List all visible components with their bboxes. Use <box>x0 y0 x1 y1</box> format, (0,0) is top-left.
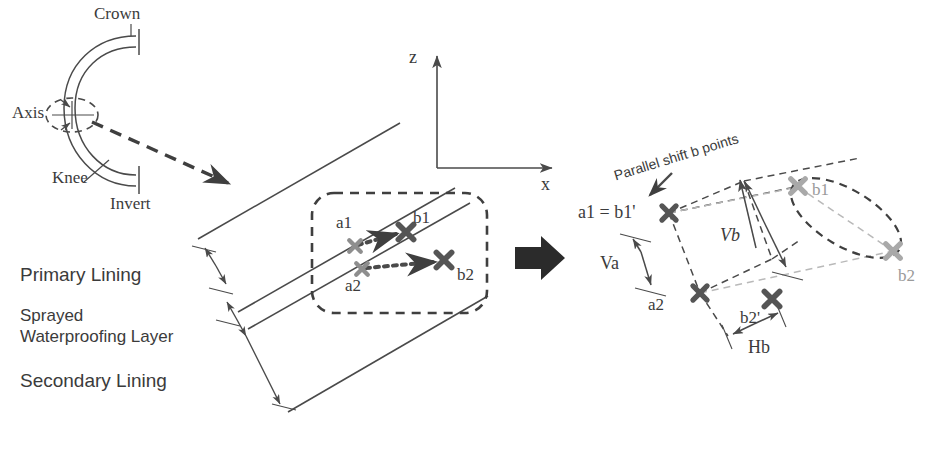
shift-target-leader <box>740 180 756 248</box>
label-invert: Invert <box>110 194 151 214</box>
lining-thickness-dimension <box>192 246 296 410</box>
label-axis: Axis <box>12 103 44 123</box>
label-point-b2: b2 <box>457 265 474 285</box>
label-secondary-lining: Secondary Lining <box>20 370 167 392</box>
coordinate-axes <box>437 56 552 168</box>
marker-a2-right <box>693 286 707 300</box>
original-b-ellipse <box>778 162 913 274</box>
label-b2-original: b2 <box>898 266 915 286</box>
axis-label-x: x <box>541 174 550 195</box>
label-sprayed-line2: Waterproofing Layer <box>20 327 173 347</box>
label-a2-right: a2 <box>648 295 664 315</box>
axis-pointer-arrow <box>92 122 228 183</box>
dimension-Va <box>620 234 666 296</box>
label-b1-original: b1 <box>812 180 829 200</box>
marker-a1-equals-b1p <box>662 206 676 220</box>
label-primary-lining: Primary Lining <box>20 264 141 286</box>
axis-label-z: z <box>409 47 417 68</box>
lining-lines <box>198 123 488 412</box>
label-b2p: b2' <box>740 308 760 328</box>
label-crown: Crown <box>94 4 140 24</box>
marker-b2 <box>436 252 451 267</box>
label-point-a2: a2 <box>345 276 361 296</box>
marker-b2p <box>764 291 779 306</box>
label-knee: Knee <box>52 168 88 188</box>
label-point-b1: b1 <box>413 208 430 228</box>
figure-canvas: Crown Axis Knee Invert z x Primary Linin… <box>0 0 938 461</box>
parallel-shift-leader-arrow <box>650 173 672 195</box>
label-sprayed-line1: Sprayed <box>20 306 83 326</box>
transition-block-arrow-icon <box>515 236 565 280</box>
label-a1-equals-b1p: a1 = b1' <box>578 202 635 223</box>
original-b-guide-lines <box>669 187 893 293</box>
axis-marker <box>46 98 98 132</box>
label-dimension-Va: Va <box>600 253 619 274</box>
label-point-a1: a1 <box>336 213 352 233</box>
label-dimension-Hb: Hb <box>748 337 770 358</box>
dimension-Vb <box>745 182 803 280</box>
marker-b1 <box>398 224 413 239</box>
label-dimension-Vb: Vb <box>720 225 740 246</box>
vector-a2-b2 <box>366 262 434 268</box>
detail-region-box <box>312 193 487 313</box>
